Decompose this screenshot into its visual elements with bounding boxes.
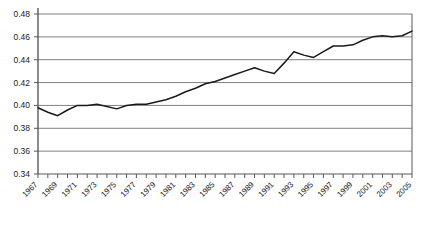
x-tick-label: 1971 — [60, 180, 79, 199]
x-tick-label: 1967 — [20, 180, 39, 199]
x-tick-label: 1993 — [276, 180, 295, 199]
x-tick-label: 1981 — [158, 180, 177, 199]
x-axis-tick-labels: 1967196919711973197519771979198119831985… — [20, 180, 413, 199]
x-tick-label: 2003 — [375, 180, 394, 199]
y-axis-tick-labels: 0.340.360.380.400.420.440.460.48 — [13, 9, 30, 179]
x-tick-label: 1979 — [139, 180, 158, 199]
chart-container: 0.340.360.380.400.420.440.460.48 1967196… — [0, 0, 426, 237]
x-tick-label: 2005 — [394, 180, 413, 199]
y-tick-label: 0.42 — [13, 78, 30, 88]
x-tick-label: 1995 — [296, 180, 315, 199]
y-tick-label: 0.44 — [13, 55, 30, 65]
x-tick-label: 1991 — [257, 180, 276, 199]
x-tick-label: 1969 — [40, 180, 59, 199]
data-line-series-1 — [38, 31, 412, 116]
x-tick-label: 1987 — [217, 180, 236, 199]
x-tick-label: 1973 — [80, 180, 99, 199]
y-tick-label: 0.36 — [13, 146, 30, 156]
x-tick-label: 1999 — [335, 180, 354, 199]
x-tick-label: 1977 — [119, 180, 138, 199]
y-tick-label: 0.40 — [13, 100, 30, 110]
x-tick-label: 1983 — [178, 180, 197, 199]
line-chart: 0.340.360.380.400.420.440.460.48 1967196… — [0, 0, 426, 237]
gridlines-group — [34, 14, 412, 174]
x-tick-label: 1985 — [198, 180, 217, 199]
y-tick-label: 0.38 — [13, 123, 30, 133]
data-line — [38, 31, 412, 116]
y-tick-label: 0.48 — [13, 9, 30, 19]
x-tick-label: 2001 — [355, 180, 374, 199]
y-tick-label: 0.46 — [13, 32, 30, 42]
x-axis-ticks — [38, 174, 412, 178]
x-tick-label: 1989 — [237, 180, 256, 199]
x-tick-label: 1997 — [316, 180, 335, 199]
y-tick-label: 0.34 — [13, 169, 30, 179]
x-tick-label: 1975 — [99, 180, 118, 199]
